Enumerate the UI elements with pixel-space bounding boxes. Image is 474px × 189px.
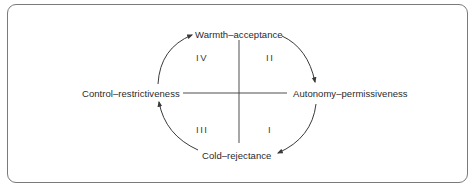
pole-label-left: Control–restrictiveness <box>82 88 180 100</box>
arrow-warmth-to-autonomy <box>282 36 315 82</box>
arrow-control-to-warmth <box>158 35 192 84</box>
quadrant-label-i: I <box>268 124 272 136</box>
arrow-autonomy-to-cold <box>278 104 316 153</box>
quadrant-label-ii: II <box>266 52 274 64</box>
quadrant-label-iii: III <box>196 124 208 136</box>
pole-label-bottom: Cold–rejectance <box>202 150 271 162</box>
arrow-cold-to-control <box>159 102 198 150</box>
quadrant-label-iv: IV <box>196 52 208 64</box>
pole-label-right: Autonomy–permissiveness <box>293 88 408 100</box>
pole-label-top: Warmth–acceptance <box>195 29 283 41</box>
